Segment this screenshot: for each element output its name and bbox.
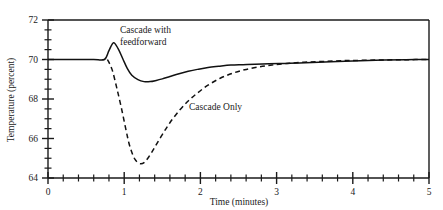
x-axis-label: Time (minutes) <box>210 197 269 208</box>
chart-container: 012345 6466687072 Time (minutes) Tempera… <box>0 0 443 210</box>
annotation-cascade-with-feedforward-line2: feedforward <box>120 37 167 47</box>
y-axis-tick-labels: 6466687072 <box>29 15 39 183</box>
y-tick-label: 66 <box>29 134 39 144</box>
series-line-1 <box>48 43 429 82</box>
plot-frame <box>48 20 429 178</box>
y-tick-label: 64 <box>29 173 39 183</box>
chart-svg: 012345 6466687072 Time (minutes) Tempera… <box>0 0 443 210</box>
y-axis-label: Temperature (percent) <box>6 58 17 143</box>
series-line-2 <box>107 60 429 164</box>
x-tick-label: 3 <box>274 187 279 197</box>
y-tick-label: 72 <box>29 15 39 25</box>
x-axis-tick-labels: 012345 <box>46 187 432 197</box>
x-tick-label: 0 <box>46 187 51 197</box>
y-tick-label: 68 <box>29 94 39 104</box>
x-tick-label: 4 <box>350 187 355 197</box>
x-tick-label: 1 <box>122 187 127 197</box>
annotation-cascade-only: Cascade Only <box>189 102 242 112</box>
y-tick-label: 70 <box>29 55 39 65</box>
x-tick-label: 2 <box>198 187 203 197</box>
annotation-cascade-with-feedforward-line1: Cascade with <box>120 25 171 35</box>
x-tick-label: 5 <box>427 187 432 197</box>
